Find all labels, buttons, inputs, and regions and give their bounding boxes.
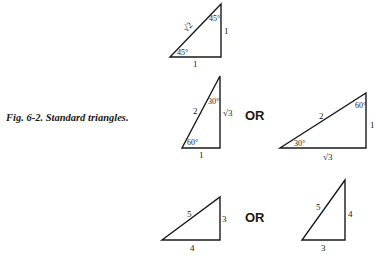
t45-horizontal-label: 1 bbox=[193, 59, 198, 69]
t345tall-horizontal-label: 3 bbox=[321, 243, 326, 253]
t45-vertical-label: 1 bbox=[224, 26, 229, 36]
t45-hypotenuse-label: √2 bbox=[181, 20, 195, 34]
t3060tall-vertical-label: √3 bbox=[223, 108, 233, 118]
t3060tall-angle-top: 30° bbox=[208, 97, 219, 106]
t3060wide-angle-top: 60° bbox=[355, 101, 366, 110]
t45-angle-top: 45° bbox=[209, 14, 220, 23]
t3060wide-angle-bottom: 30° bbox=[294, 139, 305, 148]
t345wide-hypotenuse-label: 5 bbox=[187, 209, 192, 219]
t45-angle-bottom: 45° bbox=[177, 48, 188, 57]
t3060wide-horizontal-label: √3 bbox=[323, 152, 333, 162]
t3060tall-angle-bottom: 60° bbox=[187, 138, 198, 147]
t345tall-hypotenuse-label: 5 bbox=[316, 202, 321, 212]
t3060wide-vertical-label: 1 bbox=[370, 120, 375, 130]
t345wide-horizontal-label: 4 bbox=[190, 243, 195, 253]
t3060wide-hypotenuse-label: 2 bbox=[319, 111, 324, 121]
t345tall-vertical-label: 4 bbox=[348, 209, 353, 219]
t3060tall-horizontal-label: 1 bbox=[199, 150, 204, 160]
standard-triangles-diagram: √2 1 1 45° 45° 2 √3 1 60° 30° 2 1 √3 30°… bbox=[0, 0, 378, 263]
t345wide-vertical-label: 3 bbox=[222, 214, 227, 224]
t3060tall-hypotenuse-label: 2 bbox=[193, 106, 198, 116]
triangle-3-4-5-tall bbox=[302, 180, 345, 240]
